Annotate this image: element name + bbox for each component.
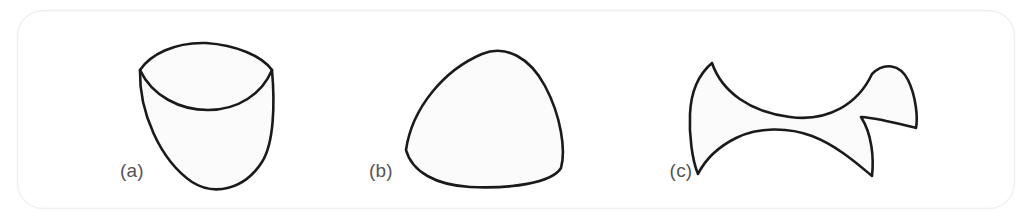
figure-container: (a) (b) (c) xyxy=(0,0,1032,221)
panel-label-c: (c) xyxy=(670,160,693,181)
panel-label-a: (a) xyxy=(120,160,144,181)
shape-a-outline xyxy=(140,43,273,189)
figure-canvas: (a) (b) (c) xyxy=(0,0,1032,221)
shape-b-group: (b) xyxy=(369,51,563,188)
panel-label-b: (b) xyxy=(369,160,393,181)
shape-b-outline xyxy=(406,51,563,188)
shape-c-outline xyxy=(690,63,917,176)
shape-c-group: (c) xyxy=(670,63,917,181)
shape-a-group: (a) xyxy=(120,43,273,189)
